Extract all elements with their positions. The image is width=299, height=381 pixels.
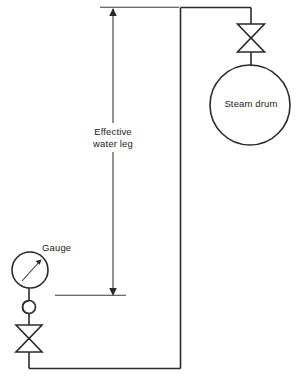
gauge-isolation-valve	[16, 325, 42, 352]
gauge-label: Gauge	[42, 242, 82, 254]
diagram-canvas: Steam drum Gauge Effective water leg	[0, 0, 299, 381]
diagram-svg	[0, 0, 299, 381]
pigtail-seal-curve	[23, 301, 29, 314]
drum-valve-lower-triangle	[238, 38, 265, 52]
gauge-needle	[22, 262, 40, 282]
siphon-pigtail	[23, 301, 36, 314]
gauge-needle-arrowhead	[36, 260, 42, 265]
gauge-valve-lower-triangle	[16, 339, 42, 353]
gauge-dial-face	[12, 252, 48, 288]
gauge-valve-upper-triangle	[16, 325, 42, 339]
effective-water-leg-label: Effective water leg	[78, 126, 148, 149]
drum-valve-upper-triangle	[238, 24, 265, 38]
drum-isolation-valve	[238, 24, 265, 52]
dimension-arrowhead-top	[109, 8, 117, 16]
connecting-piping	[29, 8, 251, 369]
pressure-gauge	[12, 252, 48, 288]
steam-drum-label: Steam drum	[219, 98, 283, 110]
